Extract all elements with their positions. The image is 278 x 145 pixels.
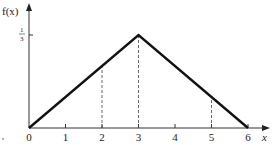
y-axis-label: f(x) — [2, 5, 19, 18]
y-tick-label-denominator: 3 — [20, 35, 24, 43]
stray-mark — [2, 138, 4, 140]
x-axis-label: x — [261, 131, 267, 143]
x-tick-labels: 0 1 2 3 4 5 6 — [26, 131, 251, 143]
y-axis-arrow-icon — [26, 3, 32, 11]
triangular-density-chart: f(x) 1 3 0 1 2 3 4 5 6 x — [0, 0, 278, 145]
svg-text:0: 0 — [26, 131, 32, 143]
svg-text:6: 6 — [245, 131, 251, 143]
svg-text:2: 2 — [99, 131, 105, 143]
svg-text:1: 1 — [63, 131, 69, 143]
y-tick-label-numerator: 1 — [20, 26, 24, 34]
svg-text:3: 3 — [136, 131, 142, 143]
svg-text:5: 5 — [209, 131, 215, 143]
svg-text:4: 4 — [172, 131, 178, 143]
x-ticks — [66, 124, 249, 128]
